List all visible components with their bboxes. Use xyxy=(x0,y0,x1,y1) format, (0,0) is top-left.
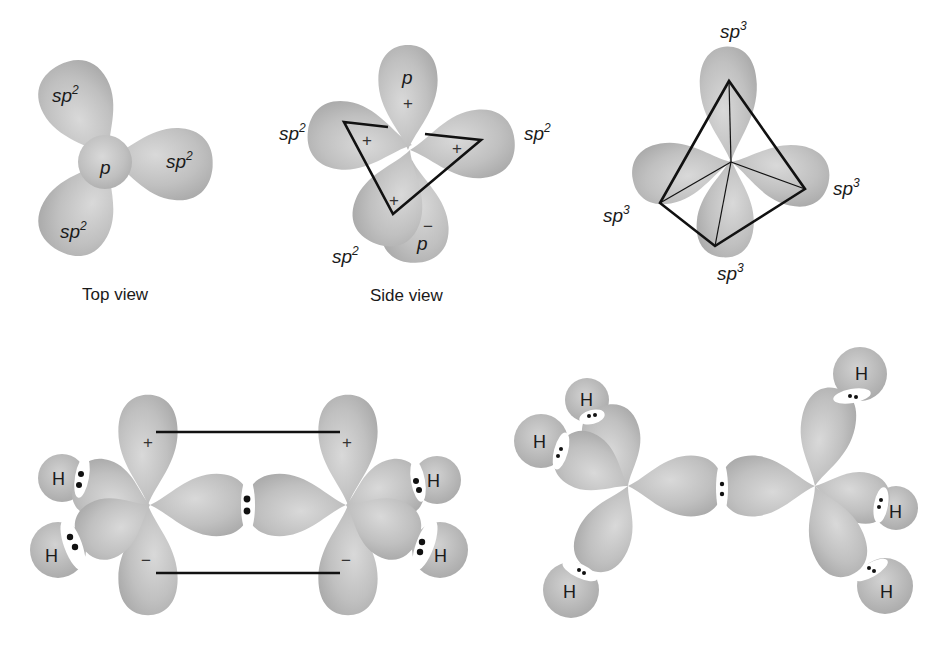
plus-sign: + xyxy=(143,433,153,452)
hydrogen-label: H xyxy=(45,546,58,566)
hybrid-orbital-diagram: sp2 sp2 sp2 p Top view p + + + + − p sp2… xyxy=(0,0,950,648)
plus-sign: + xyxy=(452,139,462,158)
sigma-lobe xyxy=(246,474,346,536)
hydrogen-label: H xyxy=(563,582,576,602)
plus-sign: + xyxy=(403,94,413,113)
hydrogen-label: H xyxy=(880,582,893,602)
sp2-label: sp2 xyxy=(332,244,359,267)
side-view-panel: p + + + + − p sp2 sp2 sp2 Side view xyxy=(279,45,551,305)
sp2-label: sp2 xyxy=(279,121,306,144)
plus-sign: + xyxy=(362,131,372,150)
ethane-panel: H H H H H H xyxy=(514,347,918,618)
plus-sign: + xyxy=(342,433,352,452)
sp3-label: sp3 xyxy=(603,203,630,226)
hydrogen-label: H xyxy=(580,390,593,410)
hydrogen-label: H xyxy=(533,432,546,452)
p-label-top: p xyxy=(401,67,413,88)
hydrogen-label: H xyxy=(889,502,902,522)
p-label-bottom: p xyxy=(416,233,428,254)
top-view-panel: sp2 sp2 sp2 p Top view xyxy=(27,48,216,304)
hydrogen-label: H xyxy=(427,471,440,491)
tetrahedral-panel: sp3 sp3 sp3 sp3 xyxy=(603,19,860,284)
minus-sign: − xyxy=(141,551,151,570)
ethylene-panel: + + − − H H H H xyxy=(30,395,468,616)
sp3-label: sp3 xyxy=(717,261,744,284)
sp3-label: sp3 xyxy=(720,19,747,42)
sigma-lobe xyxy=(150,474,250,536)
hydrogen-label: H xyxy=(52,469,65,489)
top-view-caption: Top view xyxy=(82,285,149,304)
hydrogen-label: H xyxy=(434,546,447,566)
sp2-label: sp2 xyxy=(524,121,551,144)
p-label: p xyxy=(99,157,111,178)
plus-sign: + xyxy=(389,191,399,210)
side-view-caption: Side view xyxy=(370,286,443,305)
sp3-label: sp3 xyxy=(833,176,860,199)
sigma-lobe xyxy=(628,456,723,517)
hydrogen-label: H xyxy=(855,364,868,384)
sigma-lobe xyxy=(721,456,816,517)
minus-sign: − xyxy=(341,551,351,570)
